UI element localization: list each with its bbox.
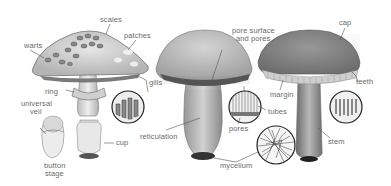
- label-stem: stem: [328, 138, 345, 146]
- label-teeth: teeth: [356, 78, 373, 86]
- label-margin: margin: [270, 91, 294, 99]
- tubes-pores-inset: [229, 91, 261, 123]
- button-stage-mushroom: [42, 116, 64, 158]
- mushroom-anatomy-diagram: scales warts patches gills ring universa…: [0, 0, 391, 186]
- label-universal-veil-line2: veil: [30, 108, 42, 116]
- teeth-inset: [330, 91, 362, 123]
- label-pore-surface-line2: and pores: [236, 35, 270, 43]
- label-mycelium: mycelium: [220, 162, 252, 170]
- label-warts: warts: [24, 42, 42, 50]
- label-pores: pores: [229, 125, 248, 133]
- label-cap: cap: [339, 19, 351, 27]
- label-scales: scales: [100, 16, 122, 24]
- label-ring: ring: [45, 88, 58, 96]
- label-button-line2: stage: [45, 170, 64, 178]
- label-reticulation: reticulation: [140, 133, 177, 141]
- mycelium-inset: [257, 126, 295, 164]
- label-cup: cup: [116, 139, 128, 147]
- label-tubes: tubes: [268, 108, 287, 116]
- label-gills: gills: [149, 79, 162, 87]
- gills-inset: [112, 91, 144, 123]
- label-patches: patches: [124, 32, 151, 40]
- diagram-illustration: [0, 0, 391, 186]
